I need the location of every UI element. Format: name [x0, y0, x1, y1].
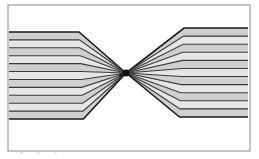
focal-junction-dot: [123, 70, 130, 77]
fan-in-diagram: [0, 0, 259, 159]
caption-fragment: ᵃ ᵇ ᶜ: [20, 150, 63, 158]
secondary-junction-dot: [119, 73, 123, 77]
